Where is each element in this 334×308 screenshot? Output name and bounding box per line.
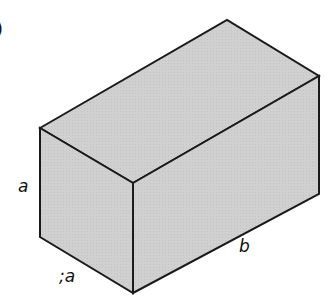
height-label: a (18, 178, 28, 195)
depth-label: ;a (59, 268, 75, 285)
cuboid-diagram (0, 0, 334, 308)
length-label: b (239, 238, 250, 255)
